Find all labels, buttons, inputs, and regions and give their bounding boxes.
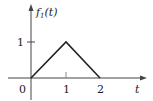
x-tick-label-1: 1 [63,83,70,96]
triangle-pulse-diagram: f1(t) 1 0 1 2 t [0,0,153,101]
origin-label: 0 [19,83,26,96]
y-axis-arrow-icon [29,4,34,11]
x-axis-arrow-icon [140,76,147,81]
x-axis-label: t [135,83,140,96]
x-tick-label-2: 2 [97,83,104,96]
function-label: f1(t) [35,6,58,20]
y-tick-label-1: 1 [17,36,24,49]
